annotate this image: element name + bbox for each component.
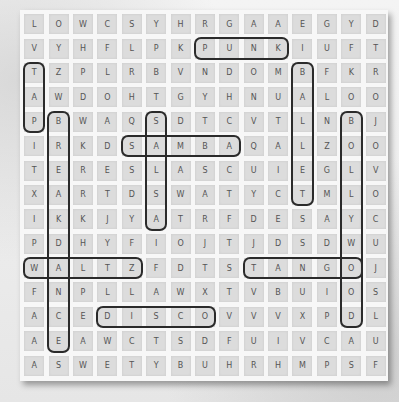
grid-cell[interactable]: B bbox=[339, 110, 363, 134]
grid-cell[interactable]: V bbox=[363, 158, 387, 182]
grid-cell[interactable]: A bbox=[95, 110, 119, 134]
grid-cell[interactable]: W bbox=[95, 329, 119, 353]
grid-cell[interactable]: Q bbox=[120, 110, 144, 134]
grid-cell[interactable]: A bbox=[290, 85, 314, 109]
grid-cell[interactable]: V bbox=[168, 61, 192, 85]
grid-cell[interactable]: G bbox=[315, 158, 339, 182]
grid-cell[interactable]: C bbox=[120, 329, 144, 353]
grid-cell[interactable]: W bbox=[71, 353, 95, 377]
grid-cell[interactable]: P bbox=[22, 232, 46, 256]
grid-cell[interactable]: D bbox=[46, 232, 70, 256]
grid-cell[interactable]: X bbox=[193, 280, 217, 304]
grid-cell[interactable]: N bbox=[290, 256, 314, 280]
grid-cell[interactable]: C bbox=[217, 158, 241, 182]
grid-cell[interactable]: H bbox=[217, 85, 241, 109]
grid-cell[interactable]: O bbox=[46, 12, 70, 36]
grid-cell[interactable]: I bbox=[266, 329, 290, 353]
grid-cell[interactable]: G bbox=[315, 256, 339, 280]
grid-cell[interactable]: A bbox=[22, 85, 46, 109]
grid-cell[interactable]: V bbox=[242, 280, 266, 304]
grid-cell[interactable]: B bbox=[168, 353, 192, 377]
grid-cell[interactable]: A bbox=[315, 207, 339, 231]
grid-cell[interactable]: E bbox=[290, 158, 314, 182]
grid-cell[interactable]: T bbox=[217, 280, 241, 304]
grid-cell[interactable]: L bbox=[95, 280, 119, 304]
grid-cell[interactable]: W bbox=[168, 183, 192, 207]
grid-cell[interactable]: J bbox=[363, 256, 387, 280]
grid-cell[interactable]: T bbox=[144, 85, 168, 109]
grid-cell[interactable]: B bbox=[144, 61, 168, 85]
grid-cell[interactable]: O bbox=[242, 61, 266, 85]
grid-cell[interactable]: I bbox=[144, 232, 168, 256]
grid-cell[interactable]: D bbox=[242, 207, 266, 231]
grid-cell[interactable]: L bbox=[22, 12, 46, 36]
grid-cell[interactable]: I bbox=[22, 134, 46, 158]
grid-cell[interactable]: H bbox=[217, 353, 241, 377]
grid-cell[interactable]: D bbox=[193, 329, 217, 353]
grid-cell[interactable]: U bbox=[315, 36, 339, 60]
grid-cell[interactable]: A bbox=[266, 256, 290, 280]
grid-cell[interactable]: R bbox=[193, 12, 217, 36]
grid-cell[interactable]: W bbox=[168, 280, 192, 304]
grid-cell[interactable]: H bbox=[120, 85, 144, 109]
grid-cell[interactable]: R bbox=[71, 158, 95, 182]
grid-cell[interactable]: A bbox=[22, 353, 46, 377]
grid-cell[interactable]: J bbox=[363, 110, 387, 134]
grid-cell[interactable]: D bbox=[95, 305, 119, 329]
grid-cell[interactable]: S bbox=[144, 183, 168, 207]
grid-cell[interactable]: O bbox=[339, 134, 363, 158]
grid-cell[interactable]: C bbox=[95, 12, 119, 36]
grid-cell[interactable]: Y bbox=[339, 12, 363, 36]
grid-cell[interactable]: S bbox=[120, 12, 144, 36]
grid-cell[interactable]: T bbox=[193, 256, 217, 280]
grid-cell[interactable]: Y bbox=[144, 12, 168, 36]
grid-cell[interactable]: S bbox=[168, 329, 192, 353]
grid-cell[interactable]: C bbox=[315, 329, 339, 353]
grid-cell[interactable]: H bbox=[266, 353, 290, 377]
grid-cell[interactable]: T bbox=[120, 353, 144, 377]
grid-cell[interactable]: U bbox=[363, 329, 387, 353]
grid-cell[interactable]: N bbox=[242, 85, 266, 109]
grid-cell[interactable]: I bbox=[22, 207, 46, 231]
grid-cell[interactable]: A bbox=[168, 158, 192, 182]
grid-cell[interactable]: M bbox=[315, 183, 339, 207]
grid-cell[interactable]: E bbox=[95, 353, 119, 377]
grid-cell[interactable]: T bbox=[168, 207, 192, 231]
grid-cell[interactable]: T bbox=[22, 61, 46, 85]
grid-cell[interactable]: S bbox=[363, 280, 387, 304]
grid-cell[interactable]: O bbox=[363, 183, 387, 207]
grid-cell[interactable]: U bbox=[290, 280, 314, 304]
grid-cell[interactable]: I bbox=[266, 158, 290, 182]
grid-cell[interactable]: A bbox=[144, 280, 168, 304]
grid-cell[interactable]: T bbox=[95, 256, 119, 280]
grid-cell[interactable]: L bbox=[363, 305, 387, 329]
grid-cell[interactable]: F bbox=[22, 280, 46, 304]
grid-cell[interactable]: D bbox=[339, 305, 363, 329]
grid-cell[interactable]: W bbox=[46, 85, 70, 109]
grid-cell[interactable]: F bbox=[95, 36, 119, 60]
grid-cell[interactable]: W bbox=[339, 232, 363, 256]
grid-cell[interactable]: S bbox=[46, 353, 70, 377]
grid-cell[interactable]: F bbox=[315, 61, 339, 85]
grid-cell[interactable]: N bbox=[46, 280, 70, 304]
grid-cell[interactable]: D bbox=[363, 12, 387, 36]
grid-cell[interactable]: U bbox=[363, 232, 387, 256]
grid-cell[interactable]: R bbox=[46, 134, 70, 158]
grid-cell[interactable]: T bbox=[217, 232, 241, 256]
grid-cell[interactable]: K bbox=[168, 36, 192, 60]
grid-cell[interactable]: K bbox=[339, 61, 363, 85]
grid-cell[interactable]: V bbox=[290, 329, 314, 353]
grid-cell[interactable]: X bbox=[22, 183, 46, 207]
grid-cell[interactable]: T bbox=[144, 329, 168, 353]
grid-cell[interactable]: P bbox=[315, 353, 339, 377]
grid-cell[interactable]: P bbox=[315, 305, 339, 329]
grid-cell[interactable]: Z bbox=[46, 61, 70, 85]
grid-cell[interactable]: D bbox=[217, 61, 241, 85]
grid-cell[interactable]: E bbox=[46, 329, 70, 353]
grid-cell[interactable]: V bbox=[242, 305, 266, 329]
grid-cell[interactable]: O bbox=[339, 85, 363, 109]
grid-cell[interactable]: D bbox=[71, 85, 95, 109]
grid-cell[interactable]: L bbox=[71, 256, 95, 280]
grid-cell[interactable]: T bbox=[266, 110, 290, 134]
grid-cell[interactable]: W bbox=[71, 110, 95, 134]
